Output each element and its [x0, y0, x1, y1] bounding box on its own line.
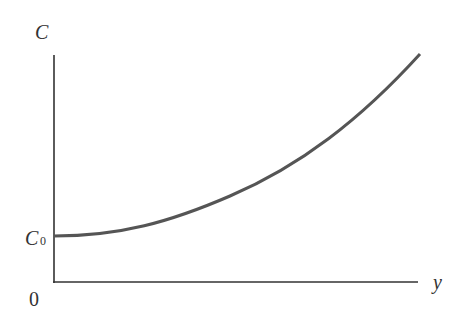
y-axis-label: C — [35, 21, 49, 43]
c0-label-sub: 0 — [40, 234, 46, 248]
origin-label: 0 — [29, 288, 39, 310]
x-axis-label: y — [431, 271, 442, 294]
curve-c-of-y — [54, 54, 420, 236]
c0-label-main: C — [25, 227, 39, 249]
diagram-canvas: C C 0 0 y — [0, 0, 467, 322]
